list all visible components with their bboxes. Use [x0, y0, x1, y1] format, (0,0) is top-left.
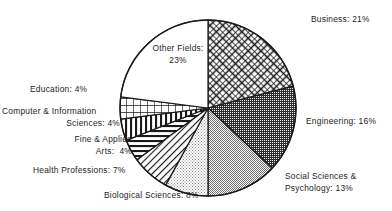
pie-chart: Business: 21%Engineering: 16%Social Scie…: [0, 0, 392, 211]
slice-label-social-sciences-line1: Social Sciences &: [285, 171, 356, 182]
slice-label-education: Education: 4%: [30, 84, 87, 95]
slice-label-engineering: Engineering: 16%: [306, 116, 376, 127]
slice-label-fine-arts-line1: Fine & Applied: [14, 134, 132, 145]
slice-label-computer-sciences-line1: Computer & Information: [2, 106, 96, 117]
slice-label-computer-sciences-line2: Sciences: 4%: [0, 118, 120, 129]
slice-label-fine-arts-line2: Arts: 4%: [14, 146, 132, 157]
slice-label-other-fields-line1: Other Fields:: [135, 43, 221, 54]
slice-label-biological-sciences: Biological Sciences: 8%: [104, 190, 199, 201]
slice-label-social-sciences-line2: Psychology: 13%: [285, 183, 353, 194]
slice-label-health-professions: Health Professions: 7%: [33, 165, 126, 176]
slice-label-other-fields-line2: 23%: [135, 55, 221, 66]
slice-label-business: Business: 21%: [311, 14, 370, 25]
